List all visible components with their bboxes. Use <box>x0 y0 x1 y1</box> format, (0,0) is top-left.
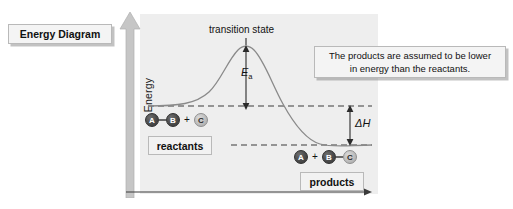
products-label-box: products <box>300 172 364 191</box>
plus-sign-product: + <box>308 152 322 162</box>
atom-b-product: B <box>322 150 336 164</box>
atom-c-reactant: C <box>194 113 208 127</box>
note-callout-box: The products are assumed to be lower in … <box>314 46 506 78</box>
plus-sign-reactant: + <box>180 115 194 125</box>
enthalpy-change-arrow <box>347 105 354 146</box>
note-line-1: The products are assumed to be lower <box>315 50 505 63</box>
bond-bc <box>336 156 343 158</box>
diagram-title-box: Energy Diagram <box>8 24 112 44</box>
reactant-molecule: A B + C <box>145 112 208 128</box>
product-molecule: A + B C <box>294 149 357 165</box>
note-line-2: in energy than the reactants. <box>315 63 505 76</box>
atom-c-product: C <box>343 150 357 164</box>
atom-a-reactant: A <box>145 113 159 127</box>
activation-energy-label: Ea <box>241 66 253 81</box>
bond-ab <box>159 119 166 121</box>
enthalpy-change-label: ΔH <box>355 117 370 129</box>
energy-diagram-figure: Energy transition state Ea ΔH <box>0 0 513 209</box>
atom-b-reactant: B <box>166 113 180 127</box>
ea-subscript: a <box>248 72 252 81</box>
atom-a-product: A <box>294 150 308 164</box>
reactants-label-box: reactants <box>148 136 212 155</box>
transition-state-label: transition state <box>209 24 274 35</box>
